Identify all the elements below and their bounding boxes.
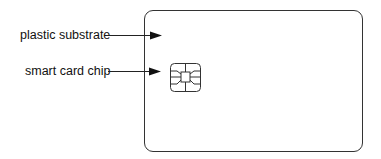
arrow-smart-card-chip bbox=[108, 68, 161, 76]
chip-icon bbox=[171, 64, 201, 92]
arrow-plastic-substrate bbox=[106, 32, 162, 40]
diagram-overlay bbox=[0, 0, 381, 159]
